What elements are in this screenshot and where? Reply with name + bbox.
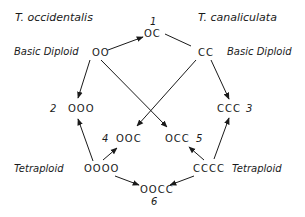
node-cc: CC: [198, 47, 214, 59]
node-number-4: 4: [102, 133, 108, 145]
node-oocc: OOCC: [140, 184, 174, 196]
edge-cc-ooc: [137, 60, 196, 126]
node-oooo: OOOO: [84, 163, 119, 175]
species-left-title: T. occidentalis: [15, 12, 93, 24]
edge-cc-ccc: [211, 60, 229, 99]
edge-oooo-oocc: [115, 176, 139, 185]
tetraploid-right-label: Tetraploid: [232, 163, 282, 175]
node-number-5: 5: [196, 133, 202, 145]
tetraploid-left-label: Tetraploid: [14, 163, 64, 175]
edge-oooo-ooo: [78, 119, 93, 161]
node-number-1: 1: [150, 16, 156, 28]
edge-oo-occ: [101, 60, 167, 127]
node-oo: OO: [92, 47, 110, 59]
edge-cccc-occ: [189, 147, 204, 160]
edge-oooo-ooc: [103, 148, 117, 160]
edge-oo-ooo: [78, 60, 90, 98]
node-occ: OCC: [165, 133, 190, 145]
basic-diploid-right-label: Basic Diploid: [227, 46, 292, 58]
node-number-6: 6: [151, 196, 157, 208]
edge-cccc-ccc: [214, 118, 229, 159]
edge-oo-oc: [108, 37, 143, 50]
node-ooc: OOC: [116, 133, 142, 145]
node-number-2: 2: [50, 103, 56, 115]
node-number-3: 3: [246, 103, 252, 115]
basic-diploid-left-label: Basic Diploid: [14, 46, 79, 58]
edge-cc-oc: [165, 34, 191, 46]
node-cccc: CCCC: [193, 163, 225, 175]
node-ccc: CCC: [217, 103, 241, 115]
node-oc: OC: [144, 28, 161, 40]
species-right-title: T. canaliculata: [198, 12, 277, 24]
node-ooo: OOO: [68, 103, 95, 115]
